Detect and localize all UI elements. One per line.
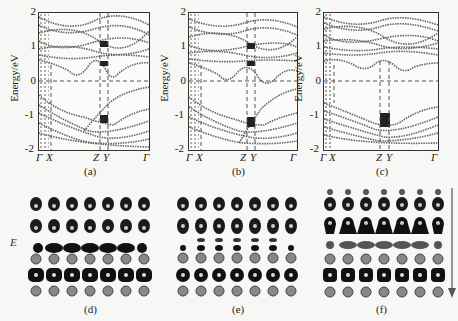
y-tick: 0: [24, 74, 36, 86]
x-tick-gamma: Γ: [36, 151, 42, 163]
panel-caption: (f): [376, 303, 387, 315]
y-tick: 0: [309, 74, 321, 86]
y-tick: 2: [174, 5, 186, 17]
y-tick: -1: [172, 108, 184, 120]
x-tick-z: Z: [376, 151, 382, 163]
y-tick: -2: [22, 142, 34, 154]
x-tick-gamma: Γ: [320, 151, 326, 163]
panel-caption: (e): [232, 303, 244, 315]
x-tick-z: Z: [240, 151, 246, 163]
y-axis-label: Energy/eV: [292, 54, 304, 101]
x-tick-x: X: [46, 151, 53, 163]
y-tick: -2: [172, 142, 184, 154]
panel-caption: (b): [232, 165, 245, 177]
plot-frame: [188, 12, 298, 151]
panel-caption: (d): [84, 303, 97, 315]
x-tick-gamma: Γ: [186, 151, 192, 163]
panel-caption: (a): [84, 165, 96, 177]
y-tick: -1: [307, 108, 319, 120]
x-tick-gamma-end: Γ: [290, 151, 296, 163]
y-tick: -2: [307, 142, 319, 154]
y-tick: 2: [24, 5, 36, 17]
charge-density-panel-e: [175, 192, 303, 300]
plot-frame: [38, 12, 150, 151]
y-tick: -1: [22, 108, 34, 120]
charge-density-panel-f: [322, 184, 458, 300]
x-tick-gamma-end: Γ: [143, 151, 149, 163]
plot-frame: [323, 12, 439, 151]
y-tick: 1: [309, 39, 321, 51]
x-tick-z: Z: [93, 151, 99, 163]
y-axis-label: Energy/eV: [8, 54, 20, 101]
x-tick-x: X: [196, 151, 203, 163]
electric-field-label: E: [10, 236, 17, 248]
panel-caption: (c): [376, 165, 388, 177]
x-tick-y: Y: [103, 151, 109, 163]
y-tick: 0: [174, 74, 186, 86]
x-tick-gamma-end: Γ: [431, 151, 437, 163]
charge-density-panel-d: [28, 192, 156, 300]
y-tick: 2: [309, 5, 321, 17]
y-tick: 1: [174, 39, 186, 51]
x-tick-x: X: [329, 151, 336, 163]
x-tick-y: Y: [386, 151, 392, 163]
y-tick: 1: [24, 39, 36, 51]
arrow-down-icon: [448, 188, 456, 298]
x-tick-y: Y: [250, 151, 256, 163]
y-axis-label: Energy/eV: [158, 54, 170, 101]
